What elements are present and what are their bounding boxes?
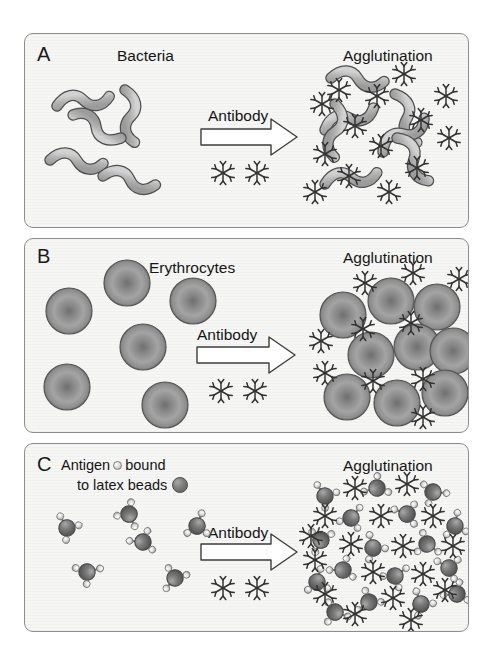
panel-a-bacteria: A Bacteria Agglutination Antibody <box>24 33 469 228</box>
antibody-arrow-c <box>201 534 297 570</box>
arrow-antibodies-c <box>212 577 268 600</box>
panel-b-stage <box>25 239 468 432</box>
panel-c-stage <box>25 444 468 631</box>
agglutinated-beads-cluster <box>297 469 469 629</box>
arrow-antibodies-b <box>210 380 266 403</box>
antibody-arrow-a <box>201 119 297 155</box>
free-erythrocytes-group <box>44 260 216 428</box>
panel-b-erythrocytes: B Erythrocytes Agglutination Antibody <box>24 238 469 433</box>
arrow-antibodies-a <box>212 162 268 185</box>
antibody-arrow-b <box>197 337 295 373</box>
free-bacteria-group <box>49 89 156 192</box>
panel-c-latex-beads: C Antigenbound to latex beads Agglutinat… <box>24 443 469 632</box>
panel-a-stage <box>25 34 468 227</box>
agglutination-figure: A Bacteria Agglutination Antibody <box>0 0 491 656</box>
free-latex-beads-group <box>51 495 215 592</box>
agglutinated-erythrocytes-cluster <box>320 278 469 426</box>
